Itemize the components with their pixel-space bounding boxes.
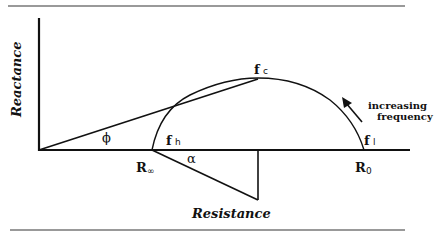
annotation-line1: increasing	[368, 100, 427, 111]
f-l-label: f l	[364, 133, 376, 148]
y-axis-label: Reactance	[9, 42, 24, 118]
svg-text:R: R	[136, 160, 147, 175]
phi-label: ϕ	[102, 130, 111, 145]
alpha-line	[152, 150, 258, 200]
f-h-label: f h	[166, 133, 181, 148]
r-inf-label: R ∞	[136, 160, 155, 176]
svg-text:f: f	[254, 62, 261, 77]
svg-text:f: f	[364, 133, 371, 148]
svg-text:h: h	[175, 137, 181, 147]
svg-text:c: c	[263, 66, 268, 76]
svg-text:R: R	[355, 160, 366, 175]
svg-text:f: f	[166, 133, 173, 148]
impedance-arc	[152, 78, 364, 150]
svg-text:0: 0	[366, 166, 372, 176]
cole-cole-diagram: Reactance Resistance ϕ α f c f h f l R ∞…	[0, 0, 434, 235]
x-axis-label: Resistance	[191, 206, 271, 221]
alpha-label: α	[187, 151, 196, 166]
svg-text:∞: ∞	[147, 166, 155, 176]
svg-text:l: l	[373, 137, 376, 147]
arrow-head-icon	[342, 97, 352, 108]
annotation-line2: frequency	[377, 111, 434, 122]
f-c-label: f c	[254, 62, 268, 77]
r-zero-label: R 0	[355, 160, 372, 176]
phi-line	[39, 79, 258, 150]
